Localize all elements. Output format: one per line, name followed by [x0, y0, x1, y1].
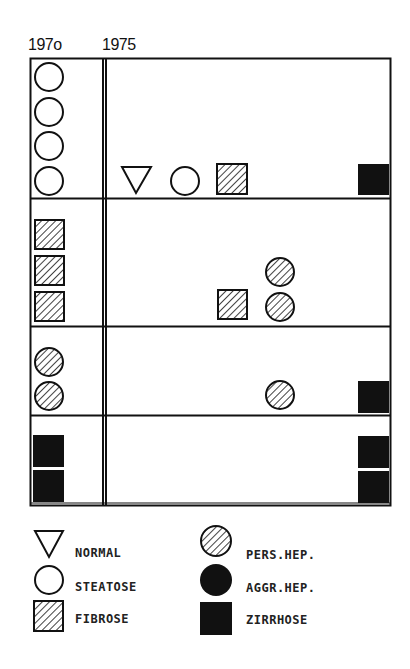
steatose-marker — [35, 98, 63, 126]
zirrhose-marker — [358, 436, 389, 468]
zirrhose-marker — [33, 435, 64, 467]
pers-hep-marker — [35, 348, 63, 376]
fibrose-marker — [35, 220, 64, 249]
zirrhose-marker — [358, 471, 389, 503]
legend-label-normal: NORMAL — [75, 546, 121, 560]
steatose-marker — [171, 167, 199, 195]
legend-pers-hep-icon — [201, 526, 231, 556]
row-2-1975 — [218, 258, 294, 321]
pers-hep-marker — [266, 258, 294, 286]
legend-normal-icon — [35, 531, 63, 557]
row-3-1970 — [35, 348, 63, 410]
legend-label-fibrose: FIBROSE — [75, 612, 129, 626]
legend-label-zirrhose: ZIRRHOSE — [246, 613, 308, 627]
pers-hep-marker — [266, 293, 294, 321]
fibrose-marker — [218, 290, 247, 319]
fibrose-marker — [217, 164, 247, 194]
fibrose-marker — [35, 292, 64, 321]
steatose-marker — [35, 132, 63, 160]
chart-canvas — [0, 0, 410, 669]
legend-zirrhose-icon — [200, 602, 232, 635]
row-1-1975 — [122, 164, 389, 195]
row-1-1970 — [35, 63, 63, 195]
row-4-1970 — [33, 435, 64, 502]
row-4-1975 — [358, 436, 389, 503]
pers-hep-marker — [266, 381, 294, 409]
legend-label-aggr-hep: AGGR.HEP. — [246, 581, 316, 595]
zirrhose-marker — [33, 470, 64, 502]
zirrhose-marker — [358, 164, 389, 195]
legend-fibrose-icon — [34, 601, 63, 631]
fibrose-marker — [35, 256, 64, 285]
normal-marker — [122, 167, 151, 193]
steatose-marker — [35, 167, 63, 195]
steatose-marker — [35, 63, 63, 91]
chart-frame — [30, 58, 391, 506]
pers-hep-marker — [35, 382, 63, 410]
legend-aggr-hep-icon — [200, 564, 232, 596]
legend-label-pers-hep: PERS.HEP. — [246, 548, 316, 562]
row-3-1975 — [266, 381, 389, 413]
legend-steatose-icon — [35, 566, 63, 594]
legend-label-steatose: STEATOSE — [75, 580, 137, 594]
row-2-1970 — [35, 220, 64, 321]
zirrhose-marker — [358, 381, 389, 413]
